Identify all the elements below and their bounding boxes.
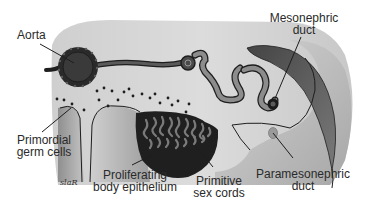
glomerulus: [181, 56, 195, 70]
artist-signature: slaR: [60, 178, 77, 187]
label-mesonephric-duct: Mesonephric duct: [260, 12, 348, 36]
label-primordial-germ-cells: Primordial germ cells: [14, 134, 74, 158]
label-primitive-sex-cords: Primitive sex cords: [191, 175, 247, 199]
label-aorta: Aorta: [17, 29, 46, 41]
label-paramesonephric-duct: Paramesonephric duct: [253, 168, 353, 192]
aorta-lumen: [63, 52, 93, 82]
label-proliferating-body-epithelium: Proliferating body epithelium: [90, 169, 180, 193]
